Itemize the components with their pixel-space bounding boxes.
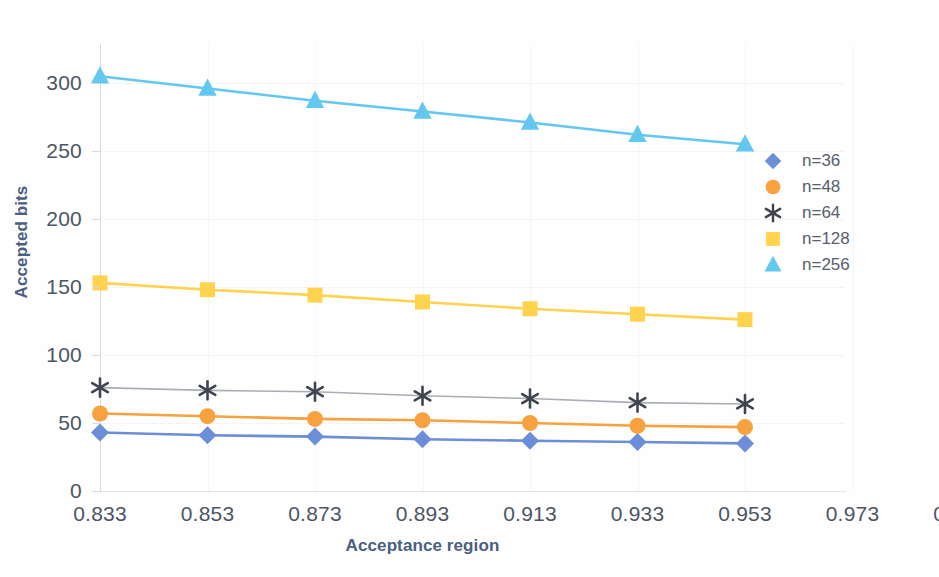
y-axis-tick — [92, 219, 100, 220]
gridline-horizontal — [100, 287, 845, 288]
chart-container: 050100150200250300 0.8330.8530.8730.8930… — [0, 0, 939, 577]
data-point-square — [766, 232, 780, 246]
legend-marker-square-icon — [756, 226, 790, 252]
data-point-asterisk — [766, 205, 780, 222]
x-axis-tick-label: 0.953 — [690, 502, 800, 526]
legend-marker-diamond-icon — [756, 148, 790, 174]
y-axis-tick — [92, 491, 100, 492]
legend: n=36n=48n=64n=128n=256 — [756, 148, 850, 278]
legend-item-n-256[interactable]: n=256 — [756, 252, 850, 278]
gridline-vertical — [208, 44, 209, 491]
x-axis-tick-label: 0.913 — [475, 502, 585, 526]
legend-marker-triangle-icon — [756, 252, 790, 278]
x-axis-title: Acceptance region — [0, 536, 845, 556]
gridline-vertical — [638, 44, 639, 491]
legend-label: n=48 — [802, 177, 840, 197]
y-axis-title: Accepted bits — [12, 142, 32, 342]
x-axis-tick-label: 0.973 — [798, 502, 908, 526]
data-point-circle — [766, 180, 781, 195]
gridline-horizontal — [100, 151, 845, 152]
y-axis-tick — [92, 287, 100, 288]
gridline-horizontal — [100, 219, 845, 220]
y-axis-tick-label: 50 — [0, 411, 82, 435]
gridline-vertical — [315, 44, 316, 491]
x-axis-tick-label: 0.933 — [583, 502, 693, 526]
legend-item-n-64[interactable]: n=64 — [756, 200, 850, 226]
y-axis-tick — [92, 423, 100, 424]
gridline-vertical — [745, 44, 746, 491]
legend-item-n-36[interactable]: n=36 — [756, 148, 850, 174]
y-axis-tick-label: 0 — [0, 479, 82, 503]
x-axis-tick-label: 0.853 — [153, 502, 263, 526]
y-axis-tick — [92, 355, 100, 356]
x-axis-tick-label: 0.833 — [45, 502, 155, 526]
legend-item-n-128[interactable]: n=128 — [756, 226, 850, 252]
y-axis-tick-label: 100 — [0, 343, 82, 367]
gridline-horizontal — [100, 355, 845, 356]
legend-marker-asterisk-icon — [756, 200, 790, 226]
gridline-horizontal — [100, 423, 845, 424]
gridline-vertical — [530, 44, 531, 491]
y-axis-tick-label: 300 — [0, 71, 82, 95]
y-axis-tick — [92, 151, 100, 152]
legend-label: n=128 — [802, 229, 850, 249]
gridline-vertical — [853, 44, 854, 491]
legend-marker-circle-icon — [756, 174, 790, 200]
y-axis-line — [100, 44, 101, 493]
legend-label: n=64 — [802, 203, 840, 223]
legend-item-n-48[interactable]: n=48 — [756, 174, 850, 200]
gridline-vertical — [423, 44, 424, 491]
data-point-triangle — [765, 256, 782, 272]
x-axis-tick-label: 0.993 — [905, 502, 939, 526]
legend-label: n=256 — [802, 255, 850, 275]
plot-area — [100, 44, 845, 491]
data-point-diamond — [765, 153, 782, 170]
gridline-horizontal — [100, 83, 845, 84]
y-axis-tick — [92, 83, 100, 84]
x-axis-tick-label: 0.893 — [368, 502, 478, 526]
x-axis-line — [100, 491, 846, 492]
legend-label: n=36 — [802, 151, 840, 171]
x-axis-tick-label: 0.873 — [260, 502, 370, 526]
